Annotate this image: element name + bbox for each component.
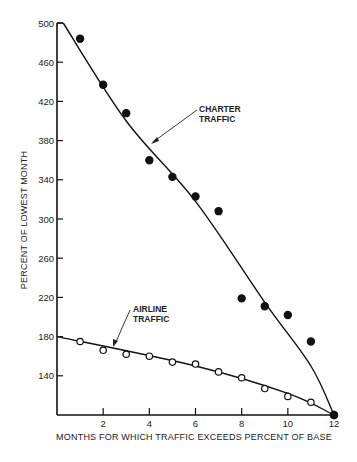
charter-data-point [123, 110, 130, 117]
charter-data-point [192, 193, 199, 200]
airline-fit-line [57, 337, 334, 415]
charter-data-point [146, 157, 153, 164]
airline-data-point [330, 411, 337, 418]
x-axis-title: MONTHS FOR WHICH TRAFFIC EXCEEDS PERCENT… [56, 432, 332, 442]
charter-label-line1: CHARTER [199, 104, 241, 114]
charter-data-point [76, 35, 83, 42]
airline-arrowhead-icon [113, 339, 118, 347]
airline-data-point [169, 359, 175, 365]
y-tick-label: 500 [38, 18, 54, 29]
charter-label-line2: TRAFFIC [199, 114, 235, 124]
x-tick-label: 8 [239, 418, 244, 429]
airline-data-point [146, 353, 152, 359]
y-tick-label: 220 [38, 292, 54, 303]
y-tick-label: 380 [38, 135, 54, 146]
airline-data-point [308, 399, 314, 405]
data-points [76, 35, 337, 419]
y-axis-title: PERCENT OF LOWEST MONTH [19, 151, 29, 289]
y-tick-label: 260 [38, 253, 54, 264]
airline-data-point [262, 385, 268, 391]
charter-data-point [215, 208, 222, 215]
x-tick-label: 4 [147, 418, 152, 429]
airline-data-point [100, 347, 106, 353]
axes [57, 23, 334, 415]
charter-data-point [307, 338, 314, 345]
airline-data-point [123, 351, 129, 357]
y-tick-label: 300 [38, 214, 54, 225]
airline-data-point [285, 393, 291, 399]
airline-data-point [238, 375, 244, 381]
charter-data-point [100, 81, 107, 88]
airline-label-line2: TRAFFIC [133, 314, 169, 324]
y-tick-label: 460 [38, 57, 54, 68]
x-tick-label: 10 [283, 418, 294, 429]
x-tick-label: 6 [193, 418, 198, 429]
y-tick-label: 140 [38, 370, 54, 381]
x-tick-label: 2 [101, 418, 106, 429]
airline-annotation-arrow [115, 310, 130, 344]
charter-data-point [238, 295, 245, 302]
charter-data-point [169, 173, 176, 180]
airline-data-point [192, 361, 198, 367]
fit-lines [57, 23, 334, 415]
x-axis-ticks: 24681012 [101, 408, 340, 429]
charter-annotation-arrow [153, 110, 197, 142]
x-tick-label: 12 [329, 418, 340, 429]
airline-label-line1: AIRLINE [133, 304, 167, 314]
airline-data-point [77, 338, 83, 344]
y-axis-ticks: 140180220260300340380420460500 [38, 18, 63, 382]
y-tick-label: 180 [38, 331, 54, 342]
y-tick-label: 420 [38, 96, 54, 107]
chart-canvas: 140180220260300340380420460500 24681012 … [0, 0, 357, 462]
charter-data-point [284, 311, 291, 318]
y-tick-label: 340 [38, 174, 54, 185]
charter-data-point [261, 303, 268, 310]
airline-data-point [215, 369, 221, 375]
